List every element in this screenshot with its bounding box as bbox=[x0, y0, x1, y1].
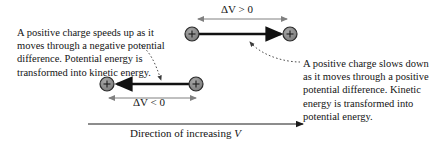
delta-v-negative-label: ΔV < 0 bbox=[133, 96, 165, 108]
right-caption-leader-line bbox=[250, 42, 300, 62]
direction-axis-label-prefix: Direction of increasing bbox=[130, 127, 234, 139]
bottom-right-charge bbox=[189, 77, 203, 91]
delta-v-positive-label: ΔV > 0 bbox=[221, 3, 253, 15]
top-right-charge bbox=[283, 27, 297, 41]
right-caption-text: A positive charge slows down as it moves… bbox=[303, 57, 438, 123]
direction-axis-label: Direction of increasing V bbox=[130, 127, 241, 139]
direction-axis-label-variable: V bbox=[234, 127, 241, 139]
physics-figure: A positive charge speeds up as it moves … bbox=[0, 0, 441, 145]
top-left-charge bbox=[185, 27, 199, 41]
left-caption-text: A positive charge speeds up as it moves … bbox=[17, 26, 177, 79]
bottom-left-charge bbox=[100, 77, 114, 91]
